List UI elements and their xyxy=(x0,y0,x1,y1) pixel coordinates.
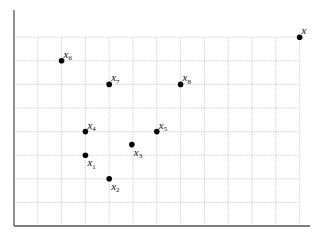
label-x: x xyxy=(301,24,307,36)
label-x3: x3 xyxy=(133,146,143,161)
label-x2: x2 xyxy=(110,180,120,195)
label-x1: x1 xyxy=(86,156,96,171)
scatter-plot: xx1x2x3x4x5x6x7x8 xyxy=(0,0,322,243)
data-points: xx1x2x3x4x5x6x7x8 xyxy=(59,24,307,194)
